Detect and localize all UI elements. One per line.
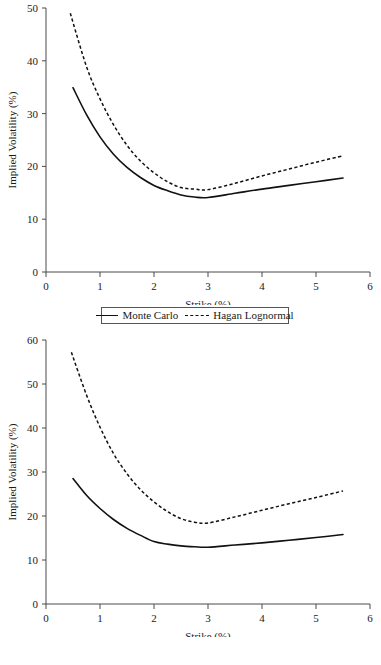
y-tick-label: 0 [33, 598, 39, 610]
x-tick-label: 4 [259, 612, 265, 624]
x-tick-label: 5 [313, 280, 319, 292]
x-tick-label: 6 [367, 612, 373, 624]
y-tick-label: 50 [27, 2, 39, 14]
x-tick-label: 1 [97, 280, 103, 292]
x-tick-label: 5 [313, 612, 319, 624]
y-tick-label: 20 [27, 510, 39, 522]
legend-entry-hagan-lognormal: Hagan Lognormal [185, 310, 293, 321]
legend-entry-monte-carlo: Monte Carlo [96, 310, 178, 321]
y-tick-label: 40 [27, 55, 39, 67]
y-tick-label: 0 [33, 266, 39, 278]
y-axis-title: Implied Volatility (%) [6, 423, 19, 520]
series-hagan-lognormal [70, 13, 343, 190]
x-tick-label: 6 [367, 280, 373, 292]
x-tick-label: 3 [205, 280, 211, 292]
chart-2-plot: 01020304050600123456Strike (%)Implied Vo… [0, 332, 381, 637]
y-tick-label: 30 [27, 466, 39, 478]
y-tick-label: 10 [27, 213, 39, 225]
x-axis-title: Strike (%) [185, 298, 231, 305]
x-tick-label: 0 [43, 612, 49, 624]
chart-panel-2: 01020304050600123456Strike (%)Implied Vo… [0, 332, 381, 665]
x-axis-title: Strike (%) [185, 630, 231, 637]
x-tick-label: 2 [151, 280, 157, 292]
y-tick-label: 10 [27, 554, 39, 566]
x-tick-label: 1 [97, 612, 103, 624]
y-tick-label: 20 [27, 160, 39, 172]
x-tick-label: 3 [205, 612, 211, 624]
y-tick-label: 30 [27, 108, 39, 120]
dashed-line-icon [185, 315, 209, 316]
x-tick-label: 2 [151, 612, 157, 624]
chart-panel-1: 010203040500123456Strike (%)Implied Vola… [0, 0, 381, 332]
series-monte-carlo [73, 479, 343, 548]
legend-label-hagan-lognormal: Hagan Lognormal [213, 310, 293, 321]
chart-1-legend: Monte Carlo Hagan Lognormal [101, 307, 289, 324]
solid-line-icon [96, 315, 118, 316]
y-axis-title: Implied Volatility (%) [6, 91, 19, 188]
chart-1-plot: 010203040500123456Strike (%)Implied Vola… [0, 0, 381, 305]
legend-label-monte-carlo: Monte Carlo [122, 310, 178, 321]
y-tick-label: 50 [27, 378, 39, 390]
x-tick-label: 0 [43, 280, 49, 292]
y-tick-label: 40 [27, 422, 39, 434]
x-tick-label: 4 [259, 280, 265, 292]
series-hagan-lognormal [71, 352, 343, 523]
y-tick-label: 60 [27, 334, 39, 346]
series-monte-carlo [73, 88, 343, 198]
